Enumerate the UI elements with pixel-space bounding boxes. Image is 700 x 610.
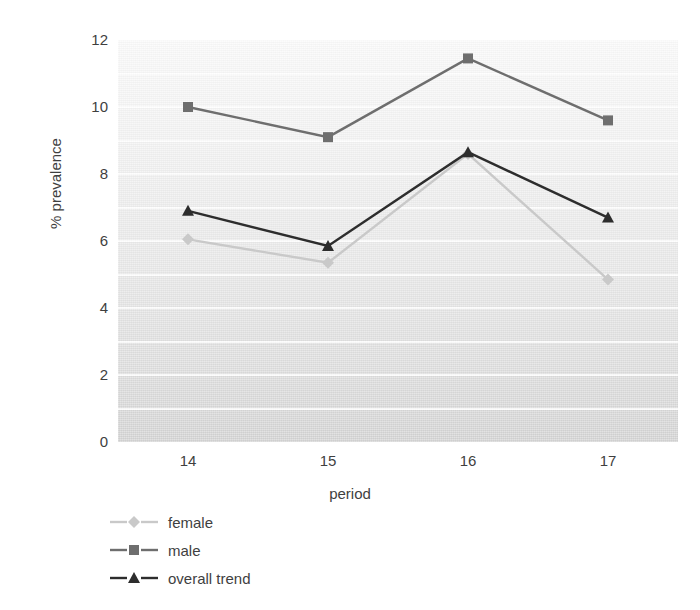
y-axis-tick-label: 0 (76, 434, 108, 449)
y-axis-tick-label: 8 (76, 166, 108, 181)
square-marker (129, 545, 139, 555)
square-marker (183, 102, 193, 112)
legend-label: male (168, 542, 201, 559)
legend-label: overall trend (168, 570, 251, 587)
series-line (188, 152, 608, 246)
legend-item-female[interactable]: female (108, 508, 251, 536)
series-line (188, 58, 608, 137)
legend-label: female (168, 514, 213, 531)
diamond-marker (182, 233, 194, 245)
y-axis-tick-labels: 024681012 (72, 0, 108, 610)
diamond-marker (128, 516, 140, 528)
triangle-marker (462, 146, 474, 157)
y-axis-title: % prevalence (47, 104, 64, 264)
square-marker (603, 115, 613, 125)
series-line (188, 154, 608, 280)
y-axis-tick-label: 10 (76, 99, 108, 114)
legend-key-triangle-icon (108, 568, 160, 588)
y-axis-tick-label: 6 (76, 233, 108, 248)
x-axis-tick-label: 15 (298, 452, 358, 469)
legend-item-overall-trend[interactable]: overall trend (108, 564, 251, 592)
y-axis-tick-label: 2 (76, 367, 108, 382)
x-axis-tick-label: 16 (438, 452, 498, 469)
legend-key-diamond-icon (108, 512, 160, 532)
x-axis-tick-label: 14 (158, 452, 218, 469)
series-overall-trend (182, 146, 614, 251)
line-chart: % prevalence 024681012 14151617 period f… (0, 0, 700, 610)
plot-area (118, 40, 678, 442)
triangle-marker (128, 572, 140, 583)
legend-key-square-icon (108, 540, 160, 560)
triangle-marker (602, 212, 614, 223)
series-male (183, 53, 613, 142)
y-axis-tick-label: 4 (76, 300, 108, 315)
triangle-marker (182, 205, 194, 216)
y-axis-tick-label: 12 (76, 32, 108, 47)
x-axis-tick-label: 17 (578, 452, 638, 469)
square-marker (463, 53, 473, 63)
chart-legend: femalemaleoverall trend (108, 508, 251, 592)
square-marker (323, 132, 333, 142)
x-axis-title: period (0, 485, 700, 502)
series-female (182, 148, 614, 286)
series-layer (118, 40, 678, 442)
legend-item-male[interactable]: male (108, 536, 251, 564)
